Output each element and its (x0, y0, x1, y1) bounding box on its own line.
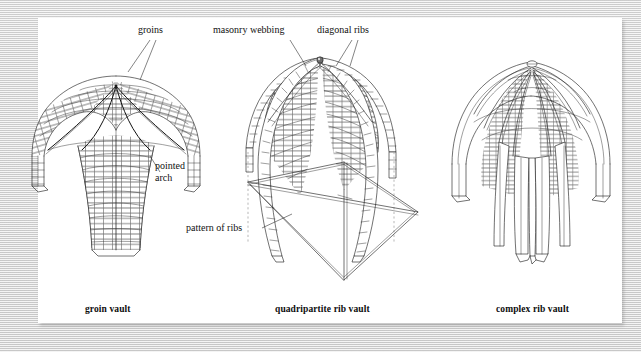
caption-complex-rib-vault: complex rib vault (496, 304, 569, 314)
label-pointed-arch: pointed arch (155, 160, 185, 183)
label-groins: groins (138, 24, 163, 36)
figure-root: .ink { fill:none; stroke:#1a1a1a; stroke… (0, 0, 641, 352)
label-masonry-webbing: masonry webbing (213, 24, 284, 36)
label-diagonal-ribs: diagonal ribs (317, 24, 369, 36)
label-pattern-of-ribs: pattern of ribs (186, 222, 242, 234)
label-pointed-arch-line1: pointed (155, 160, 185, 171)
label-pointed-arch-line2: arch (155, 172, 172, 183)
caption-quadripartite-rib-vault: quadripartite rib vault (275, 304, 370, 314)
figure-plate (38, 18, 622, 323)
caption-groin-vault: groin vault (85, 304, 131, 314)
